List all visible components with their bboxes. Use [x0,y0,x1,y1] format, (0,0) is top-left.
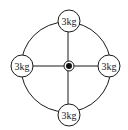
mass-top: 3kg [58,10,80,32]
wheel-diagram: 3kg 3kg 3kg 3kg [0,0,128,130]
mass-right: 3kg [98,55,120,77]
mass-bottom-label: 3kg [62,110,77,121]
mass-bottom: 3kg [58,104,80,126]
mass-left-label: 3kg [15,61,30,72]
mass-left: 3kg [11,55,33,77]
pivot-icon [64,61,74,71]
mass-right-label: 3kg [102,61,117,72]
mass-top-label: 3kg [62,16,77,27]
